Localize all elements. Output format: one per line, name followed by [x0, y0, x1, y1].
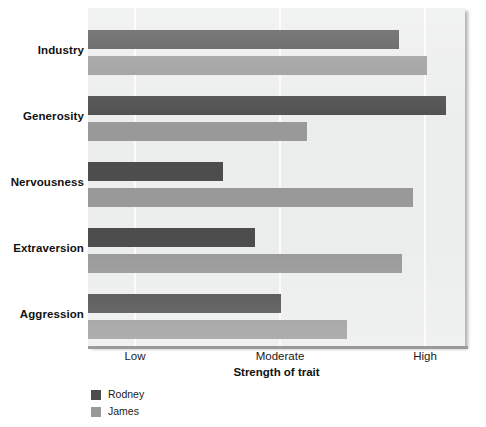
bar-chart-figure: Industry Generosity Nervousness Extraver… [0, 0, 486, 427]
bar-nervousness-james [88, 188, 413, 207]
bar-extraversion-rodney [88, 228, 255, 247]
legend-item-rodney: Rodney [91, 386, 144, 403]
category-axis-labels: Industry Generosity Nervousness Extraver… [0, 8, 84, 346]
x-tick-label-low: Low [124, 350, 145, 362]
bar-extraversion-james [88, 254, 402, 273]
category-label-extraversion: Extraversion [2, 242, 84, 254]
category-label-industry: Industry [2, 44, 84, 56]
category-label-nervousness: Nervousness [2, 176, 84, 188]
bar-generosity-rodney [88, 96, 446, 115]
x-axis-title: Strength of trait [88, 366, 465, 378]
category-label-aggression: Aggression [2, 308, 84, 320]
bar-aggression-rodney [88, 294, 281, 313]
bar-nervousness-rodney [88, 162, 223, 181]
bar-aggression-james [88, 320, 347, 339]
x-tick-label-high: High [413, 350, 437, 362]
legend-label-rodney: Rodney [108, 389, 144, 400]
x-tick-label-moderate: Moderate [256, 350, 305, 362]
category-label-generosity: Generosity [2, 110, 84, 122]
bar-generosity-james [88, 122, 307, 141]
plot-area [88, 8, 465, 346]
legend-swatch-james [91, 407, 101, 417]
x-axis-baseline [88, 346, 468, 349]
legend-label-james: James [108, 406, 139, 417]
legend-item-james: James [91, 403, 144, 420]
legend-swatch-rodney [91, 390, 101, 400]
legend: Rodney James [91, 386, 144, 420]
bar-industry-james [88, 56, 427, 75]
bar-industry-rodney [88, 30, 399, 49]
